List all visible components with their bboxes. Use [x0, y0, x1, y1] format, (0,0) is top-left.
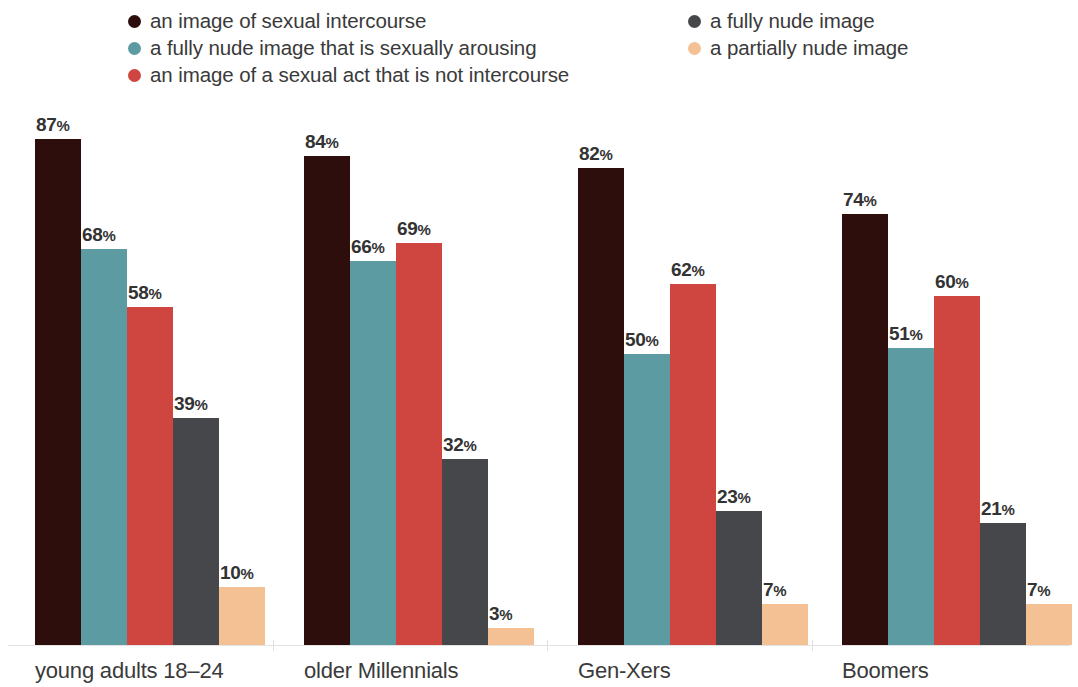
- bar[interactable]: [1026, 604, 1072, 645]
- legend-column-left: an image of sexual intercourse a fully n…: [128, 8, 569, 89]
- bar[interactable]: [488, 628, 534, 645]
- bar-column[interactable]: 58%: [127, 92, 173, 645]
- bar-column[interactable]: 68%: [81, 92, 127, 645]
- bar-value-label: 21%: [981, 499, 1015, 518]
- bar-value-label: 7%: [1027, 580, 1050, 599]
- legend-column-right: a fully nude image a partially nude imag…: [688, 8, 908, 62]
- bar[interactable]: [173, 418, 219, 645]
- bar-column[interactable]: 7%: [1026, 92, 1072, 645]
- bar-column[interactable]: 21%: [980, 92, 1026, 645]
- bar-value-label: 23%: [717, 487, 751, 506]
- bar-group: 84%66%69%32%3%older Millennials: [304, 92, 534, 687]
- category-label: Gen-Xers: [578, 658, 671, 684]
- bar-column[interactable]: 62%: [670, 92, 716, 645]
- bar-value-label: 32%: [443, 435, 477, 454]
- bar-column[interactable]: 32%: [442, 92, 488, 645]
- bar-column[interactable]: 10%: [219, 92, 265, 645]
- bar[interactable]: [35, 139, 81, 645]
- bar[interactable]: [762, 604, 808, 645]
- bar-column[interactable]: 50%: [624, 92, 670, 645]
- legend-item-label: a partially nude image: [710, 38, 908, 59]
- bar-column[interactable]: 51%: [888, 92, 934, 645]
- bar-value-label: 87%: [36, 115, 70, 134]
- bar-group: 74%51%60%21%7%Boomers: [842, 92, 1072, 687]
- bar-column[interactable]: 66%: [350, 92, 396, 645]
- legend-item: a partially nude image: [688, 35, 908, 62]
- bar-value-label: 10%: [220, 563, 254, 582]
- legend-dot-icon: [128, 15, 141, 28]
- bar-column[interactable]: 60%: [934, 92, 980, 645]
- bar[interactable]: [934, 296, 980, 645]
- category-label: young adults 18–24: [35, 658, 223, 684]
- bar-group-bars: 82%50%62%23%7%: [578, 92, 808, 645]
- bar-value-label: 69%: [397, 219, 431, 238]
- legend-item-label: a fully nude image: [710, 11, 875, 32]
- bar-value-label: 50%: [625, 330, 659, 349]
- legend-dot-icon: [128, 42, 141, 55]
- bar-value-label: 3%: [489, 604, 512, 623]
- bar-value-label: 62%: [671, 260, 705, 279]
- legend-item: a fully nude image that is sexually arou…: [128, 35, 569, 62]
- category-label: older Millennials: [304, 658, 458, 684]
- bar-group-bars: 84%66%69%32%3%: [304, 92, 534, 645]
- bar-column[interactable]: 74%: [842, 92, 888, 645]
- legend-item-label: a fully nude image that is sexually arou…: [150, 38, 536, 59]
- bar[interactable]: [219, 587, 265, 645]
- bar[interactable]: [716, 511, 762, 645]
- plot-area: 87%68%58%39%10%young adults 18–2484%66%6…: [0, 92, 1078, 687]
- legend-dot-icon: [128, 69, 141, 82]
- bar-column[interactable]: 84%: [304, 92, 350, 645]
- bar[interactable]: [670, 284, 716, 645]
- bar-value-label: 39%: [174, 394, 208, 413]
- bar[interactable]: [842, 214, 888, 645]
- bar-value-label: 84%: [305, 132, 339, 151]
- bar[interactable]: [578, 168, 624, 645]
- bar-column[interactable]: 39%: [173, 92, 219, 645]
- bar-value-label: 66%: [351, 237, 385, 256]
- bar[interactable]: [350, 261, 396, 645]
- bar[interactable]: [304, 156, 350, 645]
- bar[interactable]: [81, 249, 127, 645]
- bar-value-label: 51%: [889, 324, 923, 343]
- bar-value-label: 60%: [935, 272, 969, 291]
- legend-dot-icon: [688, 42, 701, 55]
- bar[interactable]: [127, 307, 173, 645]
- category-label: Boomers: [842, 658, 929, 684]
- bar-value-label: 82%: [579, 144, 613, 163]
- legend-item: a fully nude image: [688, 8, 908, 35]
- bar-column[interactable]: 87%: [35, 92, 81, 645]
- bar[interactable]: [980, 523, 1026, 645]
- bar-column[interactable]: 3%: [488, 92, 534, 645]
- legend-item-label: an image of a sexual act that is not int…: [150, 65, 569, 86]
- group-separator: [273, 640, 274, 651]
- bar[interactable]: [396, 243, 442, 645]
- bar-column[interactable]: 23%: [716, 92, 762, 645]
- bar-chart: an image of sexual intercourse a fully n…: [0, 0, 1078, 687]
- bar-column[interactable]: 69%: [396, 92, 442, 645]
- bar-group: 82%50%62%23%7%Gen-Xers: [578, 92, 808, 687]
- bar[interactable]: [442, 459, 488, 645]
- chart-legend: an image of sexual intercourse a fully n…: [0, 0, 1078, 92]
- group-separator: [547, 640, 548, 651]
- bar-group: 87%68%58%39%10%young adults 18–24: [35, 92, 265, 687]
- bar-value-label: 58%: [128, 283, 162, 302]
- legend-item: an image of sexual intercourse: [128, 8, 569, 35]
- bar-group-bars: 74%51%60%21%7%: [842, 92, 1072, 645]
- legend-item-label: an image of sexual intercourse: [150, 11, 426, 32]
- bar-column[interactable]: 7%: [762, 92, 808, 645]
- bar-group-bars: 87%68%58%39%10%: [35, 92, 265, 645]
- bar-value-label: 7%: [763, 580, 786, 599]
- bar[interactable]: [624, 354, 670, 645]
- legend-dot-icon: [688, 15, 701, 28]
- bar[interactable]: [888, 348, 934, 645]
- legend-item: an image of a sexual act that is not int…: [128, 62, 569, 89]
- bar-column[interactable]: 82%: [578, 92, 624, 645]
- bar-value-label: 74%: [843, 190, 877, 209]
- bar-value-label: 68%: [82, 225, 116, 244]
- group-separator: [812, 640, 813, 651]
